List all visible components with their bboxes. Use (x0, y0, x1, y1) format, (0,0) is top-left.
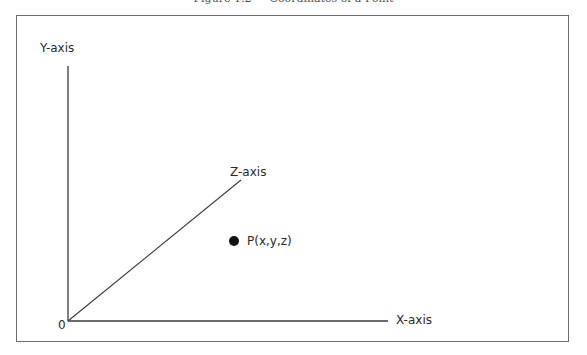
origin-label: 0 (58, 319, 66, 331)
x-axis-label: X-axis (396, 314, 432, 326)
point-p-marker (229, 236, 239, 246)
z-axis-label: Z-axis (230, 166, 266, 178)
coordinate-diagram (0, 0, 587, 355)
point-p-label: P(x,y,z) (247, 235, 292, 247)
z-axis-line (68, 180, 241, 321)
y-axis-label: Y-axis (40, 42, 74, 54)
